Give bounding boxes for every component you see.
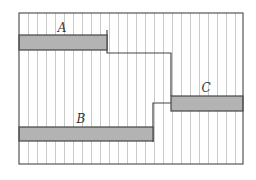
bar-b [19,127,153,141]
bar-label-a: A [57,21,67,35]
bar-c [171,96,243,111]
bar-label-c: C [201,81,210,95]
bar-label-b: B [76,112,86,126]
diagram-canvas: ABC [0,0,256,180]
block-diagram: ABC [0,0,256,180]
bar-a [19,35,107,50]
